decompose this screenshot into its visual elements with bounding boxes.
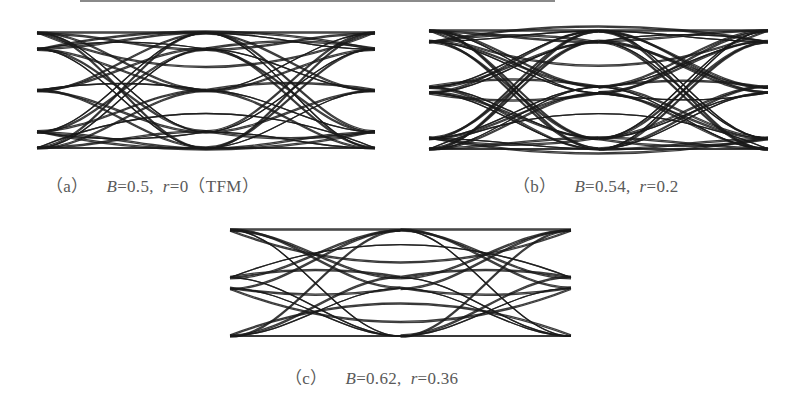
eye-trace (230, 303, 571, 335)
eye-trace (230, 230, 571, 262)
caption-b-label: （b） (513, 177, 556, 196)
caption-c-label: （c） (285, 369, 327, 388)
eye-diagram-c-plot (230, 230, 571, 336)
eye-diagram-a-plot (37, 33, 375, 148)
caption-a-label: （a） (46, 177, 88, 196)
caption-c: （c）B=0.62, r=0.36 (285, 364, 458, 389)
top-rule (80, 0, 555, 2)
eye-trace (230, 304, 571, 336)
eye-trace (230, 231, 571, 263)
eye-trace (230, 245, 571, 278)
eye-trace (206, 32, 375, 131)
eye-trace (599, 86, 769, 137)
eye-diagram-a (37, 33, 375, 148)
caption-a: （a）B=0.5, r=0（TFM） (46, 172, 259, 197)
eye-diagram-b (429, 31, 768, 149)
eye-diagram-b-plot (429, 31, 768, 149)
caption-b: （b）B=0.54, r=0.2 (513, 172, 679, 197)
eye-diagram-c (230, 230, 571, 336)
